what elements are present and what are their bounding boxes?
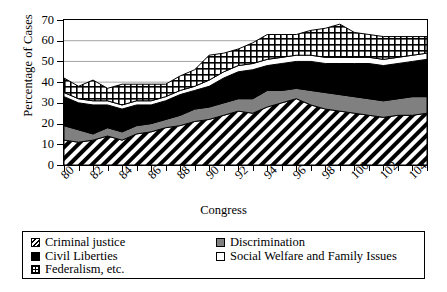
y-tick-label: 20 bbox=[26, 117, 54, 129]
y-tick-label: 70 bbox=[26, 14, 54, 26]
legend-label: Federalism, etc. bbox=[45, 263, 125, 276]
chart-root: Percentage of Cases 010203040506070 8082… bbox=[0, 0, 447, 292]
x-tick-mark bbox=[340, 166, 341, 171]
legend-label: Civil Liberties bbox=[45, 250, 118, 263]
x-tick-mark bbox=[166, 166, 167, 171]
y-tick-label: 60 bbox=[26, 34, 54, 46]
legend-item[interactable]: Federalism, etc. bbox=[31, 263, 216, 277]
legend-label: Discrimination bbox=[230, 236, 305, 249]
legend-box: Criminal justiceCivil LibertiesFederalis… bbox=[22, 231, 425, 279]
x-tick-mark bbox=[137, 166, 138, 171]
y-tick-label: 40 bbox=[26, 76, 54, 88]
y-tick-label: 30 bbox=[26, 96, 54, 108]
x-tick-mark bbox=[108, 166, 109, 171]
x-tick-mark bbox=[79, 166, 80, 171]
x-tick-mark bbox=[195, 166, 196, 171]
x-tick-mark bbox=[253, 166, 254, 171]
legend-item[interactable]: Social Welfare and Family Issues bbox=[216, 250, 416, 264]
legend-label: Social Welfare and Family Issues bbox=[230, 250, 397, 263]
legend-item[interactable]: Civil Liberties bbox=[31, 250, 216, 264]
legend-swatch-icon bbox=[31, 252, 40, 261]
legend-item[interactable]: Criminal justice bbox=[31, 236, 216, 250]
x-tick-mark bbox=[427, 166, 428, 171]
legend-label: Criminal justice bbox=[45, 236, 125, 249]
x-tick-mark bbox=[224, 166, 225, 171]
legend-item[interactable]: Discrimination bbox=[216, 236, 416, 250]
legend-swatch-icon bbox=[216, 238, 225, 247]
x-tick-mark bbox=[282, 166, 283, 171]
x-axis-title: Congress bbox=[0, 203, 447, 218]
stacked-area-svg bbox=[64, 20, 427, 165]
legend-swatch-icon bbox=[216, 252, 225, 261]
y-tick-label: 0 bbox=[26, 159, 54, 171]
plot-area bbox=[63, 19, 428, 166]
x-tick-mark bbox=[369, 166, 370, 171]
legend-column-2: DiscriminationSocial Welfare and Family … bbox=[216, 236, 416, 278]
x-tick-mark bbox=[398, 166, 399, 171]
legend-swatch-icon bbox=[31, 265, 40, 274]
area-layers bbox=[64, 24, 427, 165]
legend-column-1: Criminal justiceCivil LibertiesFederalis… bbox=[31, 236, 216, 278]
y-tick-label: 10 bbox=[26, 138, 54, 150]
x-tick-mark bbox=[311, 166, 312, 171]
legend-swatch-icon bbox=[31, 238, 40, 247]
y-tick-label: 50 bbox=[26, 55, 54, 67]
